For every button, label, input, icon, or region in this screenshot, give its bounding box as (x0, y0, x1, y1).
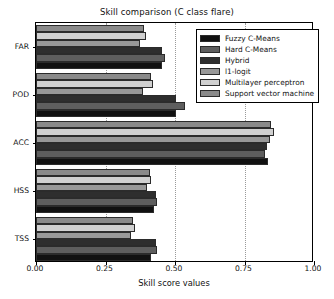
x-axis-title: Skill score values (35, 278, 313, 288)
bar (36, 176, 151, 183)
x-tick-label: 0.50 (166, 264, 183, 273)
bar (36, 47, 162, 54)
x-axis-tick-labels: 0.000.250.500.751.00 (0, 264, 334, 278)
bar (36, 184, 147, 191)
y-axis-tick-labels: FARPODACCHSSTSS (0, 22, 33, 262)
y-tick-label: HSS (14, 186, 29, 195)
y-tick-label: ACC (13, 138, 29, 147)
bar (36, 128, 274, 135)
bar (36, 198, 157, 205)
bar (36, 169, 150, 176)
legend-label: Hybrid (225, 57, 249, 64)
y-tick-label: TSS (15, 234, 29, 243)
legend-label: Hard C-Means (225, 46, 277, 53)
bar (36, 25, 144, 32)
bar (36, 191, 156, 198)
legend-swatch (200, 79, 220, 87)
legend-item: Hard C-Means (200, 44, 314, 55)
bar (36, 217, 133, 224)
bar (36, 206, 154, 213)
legend-item: Support vector machine (200, 88, 314, 99)
y-tick-label: POD (13, 90, 29, 99)
bar (36, 32, 146, 39)
legend-item: Fuzzy C-Means (200, 33, 314, 44)
bar (36, 110, 176, 117)
x-tick-label: 0.75 (235, 264, 252, 273)
x-tick-label: 1.00 (305, 264, 322, 273)
bar (36, 73, 151, 80)
y-tick-mark (33, 239, 37, 240)
legend-swatch (200, 90, 220, 98)
chart-figure: Skill comparison (C class flare) FARPODA… (0, 0, 334, 299)
bar (36, 40, 140, 47)
bar-group (36, 121, 312, 165)
legend-swatch (200, 68, 220, 76)
bar (36, 224, 135, 231)
y-tick-label: FAR (15, 42, 29, 51)
bar (36, 62, 162, 69)
x-tick-label: 0.00 (27, 264, 44, 273)
bar (36, 158, 268, 165)
chart-legend: Fuzzy C-MeansHard C-MeansHybridl1-logitM… (196, 29, 319, 103)
bar-group (36, 169, 312, 213)
legend-label: l1-logit (225, 68, 251, 75)
bar (36, 95, 176, 102)
bar (36, 254, 151, 261)
legend-swatch (200, 57, 220, 65)
legend-label: Fuzzy C-Means (225, 35, 280, 42)
legend-item: Hybrid (200, 55, 314, 66)
x-tick-label: 0.25 (96, 264, 113, 273)
bar (36, 102, 185, 109)
legend-label: Support vector machine (225, 90, 314, 97)
bar (36, 239, 156, 246)
legend-swatch (200, 46, 220, 54)
legend-item: l1-logit (200, 66, 314, 77)
bar (36, 143, 267, 150)
y-tick-mark (33, 47, 37, 48)
bar (36, 232, 131, 239)
bar (36, 121, 271, 128)
bar (36, 246, 157, 253)
bar (36, 80, 153, 87)
y-tick-mark (33, 143, 37, 144)
bar (36, 136, 270, 143)
chart-title: Skill comparison (C class flare) (0, 7, 334, 17)
bar-group (36, 217, 312, 261)
y-tick-mark (33, 191, 37, 192)
legend-swatch (200, 35, 220, 43)
bar (36, 54, 165, 61)
legend-label: Multilayer perceptron (225, 79, 304, 86)
bar (36, 150, 265, 157)
legend-item: Multilayer perceptron (200, 77, 314, 88)
bar (36, 88, 143, 95)
y-tick-mark (33, 95, 37, 96)
